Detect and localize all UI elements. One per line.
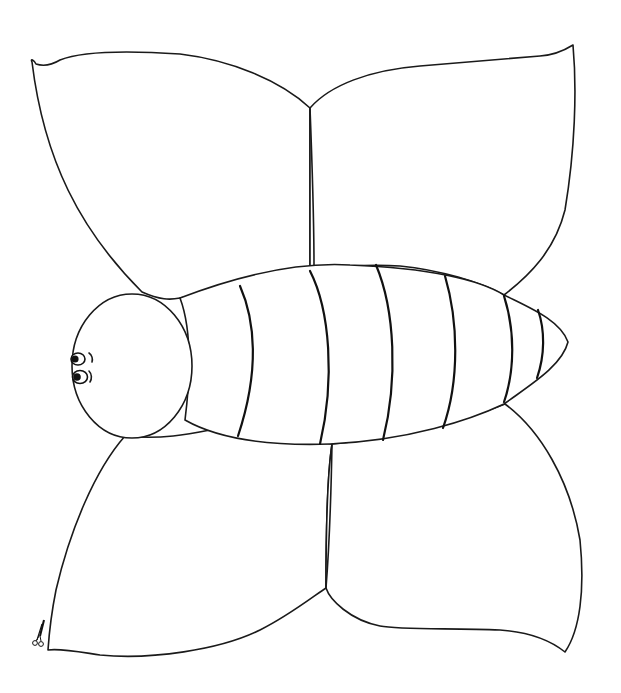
- eye-right: [73, 371, 88, 384]
- upper-right-wing: [310, 45, 575, 295]
- bee-head: [71, 294, 192, 438]
- bee-coloring-figure: [0, 0, 621, 693]
- eye-left: [71, 353, 85, 365]
- head-outline: [72, 294, 192, 438]
